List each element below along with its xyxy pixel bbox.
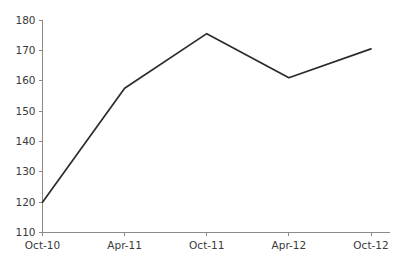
x-tick-label: Apr-12: [272, 239, 307, 251]
x-axis: Oct-10Apr-11Oct-11Apr-12Oct-12: [25, 233, 390, 251]
series-group: [43, 34, 372, 202]
x-tick-label: Apr-11: [107, 239, 142, 251]
x-tick-label-group: Oct-10Apr-11Oct-11Apr-12Oct-12: [25, 239, 389, 251]
x-tick-label: Oct-12: [353, 239, 388, 251]
y-tick-label: 120: [15, 196, 35, 208]
x-tick-label: Oct-11: [189, 239, 224, 251]
y-tick-label: 130: [15, 165, 35, 177]
y-tick-group: [39, 20, 43, 233]
data-line: [43, 34, 372, 202]
y-tick-label: 180: [15, 14, 35, 26]
y-tick-label: 170: [15, 44, 35, 56]
x-tick-group: [43, 233, 372, 237]
y-tick-label: 110: [15, 226, 35, 238]
y-tick-label: 160: [15, 74, 35, 86]
chart-canvas: 110120130140150160170180 Oct-10Apr-11Oct…: [0, 0, 396, 265]
y-tick-label: 150: [15, 105, 35, 117]
x-tick-label: Oct-10: [25, 239, 60, 251]
y-tick-label-group: 110120130140150160170180: [15, 14, 35, 239]
line-chart: 110120130140150160170180 Oct-10Apr-11Oct…: [0, 0, 396, 265]
y-tick-label: 140: [15, 135, 35, 147]
y-axis: 110120130140150160170180: [15, 14, 42, 239]
